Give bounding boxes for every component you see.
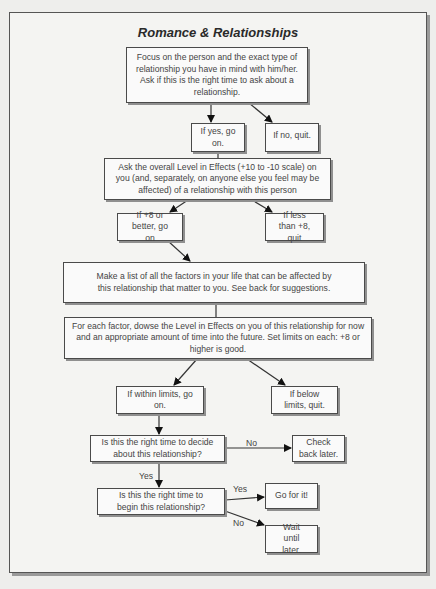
node-check-back: Check back later. [292, 435, 345, 462]
node-less8: If less than +8, quit [265, 213, 324, 241]
node-ask-level: Ask the overall Level in Effects (+10 to… [104, 158, 331, 200]
edge-label-begin-no: No [233, 518, 244, 528]
node-focus: Focus on the person and the exact type o… [126, 47, 308, 103]
node-if-no: If no, quit. [265, 123, 319, 152]
node-go-for-it: Go for it! [265, 483, 318, 509]
node-if-yes: If yes, go on. [191, 123, 245, 152]
node-within-limits: If within limits, go on. [116, 386, 204, 414]
node-wait: Wait until later. [265, 525, 318, 553]
edge-label-begin-yes: Yes [233, 484, 247, 494]
node-plus8: If +8 or better, go on [117, 213, 183, 241]
edge-label-decide-no: No [246, 438, 257, 448]
node-begin: Is this the right time to begin this rel… [97, 488, 225, 515]
node-below-limits: If below limits, quit. [271, 386, 338, 414]
edge-label-decide-yes: Yes [139, 471, 153, 481]
diagram-title: Romance & Relationships [0, 25, 436, 40]
node-make-list: Make a list of all the factors in your l… [63, 262, 365, 303]
node-each-factor: For each factor, dowse the Level in Effe… [64, 317, 372, 359]
node-decide: Is this the right time to decide about t… [90, 435, 225, 462]
